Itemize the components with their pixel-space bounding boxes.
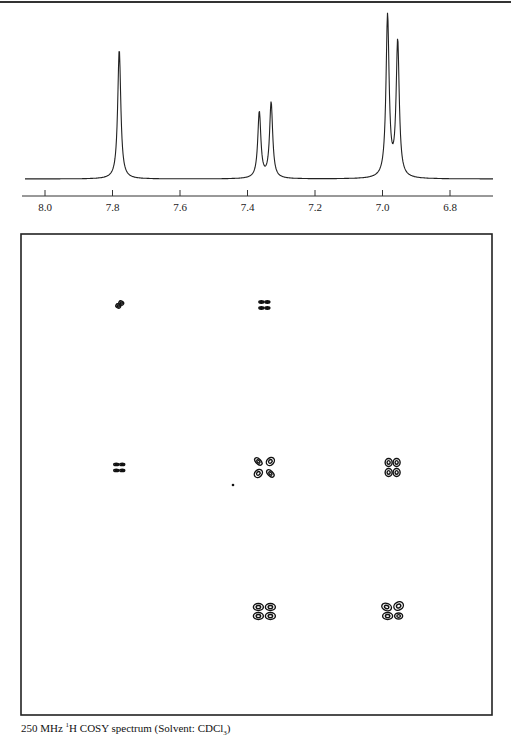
caption-nucleus: H COSY spectrum (Solvent: CDCl: [69, 722, 223, 734]
contour: [268, 605, 273, 608]
x-tick-label: 7.0: [376, 201, 390, 213]
contour: [253, 604, 263, 611]
contour: [397, 615, 401, 618]
contour: [265, 468, 275, 478]
contour: [385, 468, 392, 476]
contour: [393, 468, 400, 476]
contour: [265, 613, 275, 620]
contour: [385, 458, 392, 466]
contour: [256, 605, 261, 608]
contour: [385, 614, 390, 617]
figure-caption: 250 MHz 1H COSY spectrum (Solvent: CDCl3…: [21, 721, 231, 737]
x-tick-label: 8.0: [38, 201, 52, 213]
spectrum-trace: [25, 13, 493, 179]
contour: [395, 461, 398, 465]
contour: [121, 464, 123, 465]
contour: [387, 461, 390, 465]
caption-close: ): [227, 722, 231, 734]
contour: [381, 602, 393, 612]
contour: [253, 468, 264, 479]
contour: [384, 605, 389, 609]
cosy-plot: [21, 234, 492, 715]
spectrum-1d: [25, 13, 493, 179]
contour: [120, 302, 123, 305]
contour: [392, 600, 405, 612]
contour: [266, 301, 268, 302]
contour: [256, 471, 261, 476]
contour: [253, 613, 263, 620]
contour: [387, 471, 390, 475]
x-tick-label: 7.6: [173, 201, 187, 213]
caption-frequency: 250 MHz: [21, 722, 63, 734]
contour: [121, 470, 123, 471]
contour: [265, 456, 276, 467]
contour: [268, 614, 273, 617]
x-tick-label: 7.8: [106, 201, 120, 213]
contour: [260, 301, 262, 302]
contour: [117, 305, 120, 308]
contour: [260, 307, 262, 308]
x-tick-label: 7.4: [241, 201, 255, 213]
contour: [383, 613, 393, 620]
contour: [268, 459, 273, 464]
x-tick-label: 6.8: [443, 201, 457, 213]
artifact-dot: [232, 484, 235, 487]
contour: [265, 604, 275, 611]
contour: [115, 464, 117, 465]
contour: [396, 603, 402, 608]
contour: [266, 307, 268, 308]
cosy-contours: [114, 300, 405, 619]
contour: [393, 458, 400, 466]
contour: [115, 470, 117, 471]
nmr-figure: 8.07.87.67.47.27.06.8: [0, 0, 511, 741]
x-axis: 8.07.87.67.47.27.06.8: [22, 190, 493, 213]
contour: [395, 613, 403, 619]
x-tick-label: 7.2: [308, 201, 322, 213]
contour: [256, 614, 261, 617]
contour: [253, 456, 263, 466]
contour: [395, 471, 398, 475]
